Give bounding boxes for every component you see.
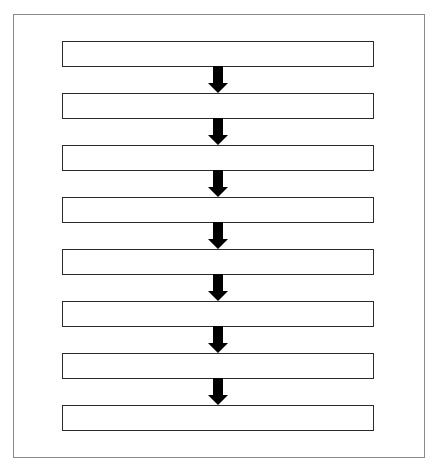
flow-step-7 [62, 353, 374, 379]
flow-step-1 [62, 41, 374, 67]
down-arrow-icon [208, 170, 228, 197]
flow-step-6 [62, 301, 374, 327]
down-arrow-icon [208, 274, 228, 301]
flow-step-8 [62, 405, 374, 431]
down-arrow-icon [208, 118, 228, 145]
down-arrow-icon [208, 222, 228, 249]
flow-step-4 [62, 197, 374, 223]
down-arrow-icon [208, 378, 228, 405]
flow-step-3 [62, 145, 374, 171]
down-arrow-icon [208, 326, 228, 353]
down-arrow-icon [208, 66, 228, 93]
flow-step-5 [62, 249, 374, 275]
flow-step-2 [62, 93, 374, 119]
